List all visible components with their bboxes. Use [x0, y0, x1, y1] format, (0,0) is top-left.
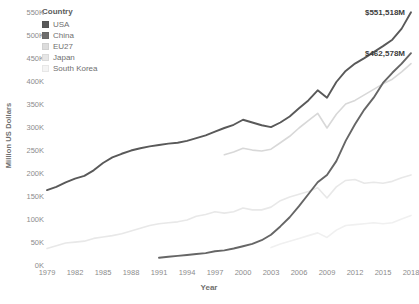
- y-axis-title: Million US Dollars: [2, 0, 16, 270]
- x-axis-title: Year: [0, 283, 418, 292]
- y-axis-title-label: Million US Dollars: [5, 102, 14, 168]
- usa-end-label: $551,518M: [365, 8, 405, 17]
- legend-item-label: South Korea: [53, 63, 97, 74]
- series-line-south-korea: [271, 215, 411, 247]
- x-axis-tick: 2015: [375, 268, 392, 277]
- legend-item-eu27[interactable]: EU27: [42, 41, 134, 52]
- y-axis-tick: 50K: [16, 239, 44, 247]
- legend-swatch-icon: [42, 65, 49, 72]
- legend-swatch-icon: [42, 21, 49, 28]
- x-axis-tick: 2012: [347, 268, 364, 277]
- legend-title: Country: [42, 7, 134, 17]
- x-axis-title-label: Year: [201, 283, 218, 292]
- y-axis-tick: 300K: [16, 124, 44, 132]
- y-axis-tick: 400K: [16, 78, 44, 86]
- legend-swatch-icon: [42, 32, 49, 39]
- y-axis-tick-labels: 0K50K100K150K200K250K300K350K400K450K500…: [16, 0, 44, 272]
- legend-swatch-icon: [42, 54, 49, 61]
- x-axis-tick-labels: 1979198219851988199119941997200020032006…: [47, 268, 411, 280]
- y-axis-tick: 100K: [16, 216, 44, 224]
- series-line-eu27: [224, 64, 411, 155]
- x-axis-tick: 2006: [291, 268, 308, 277]
- legend-item-japan[interactable]: Japan: [42, 52, 134, 63]
- legend-items: USAChinaEU27JapanSouth Korea: [42, 19, 134, 74]
- x-axis-tick: 2000: [235, 268, 252, 277]
- x-axis-tick: 1979: [39, 268, 56, 277]
- x-axis-tick: 1982: [67, 268, 84, 277]
- legend-item-china[interactable]: China: [42, 30, 134, 41]
- legend-item-label: USA: [53, 19, 69, 30]
- y-axis-tick: 150K: [16, 193, 44, 201]
- y-axis-tick: 550K: [16, 9, 44, 17]
- y-axis-tick: 250K: [16, 147, 44, 155]
- series-line-china: [159, 53, 411, 258]
- x-axis-tick: 1988: [123, 268, 140, 277]
- legend-item-label: Japan: [53, 52, 75, 63]
- x-axis-tick: 1994: [179, 268, 196, 277]
- series-line-japan: [47, 175, 411, 249]
- legend: Country USAChinaEU27JapanSouth Korea: [42, 7, 134, 74]
- x-axis-tick: 1997: [207, 268, 224, 277]
- y-axis-tick: 200K: [16, 170, 44, 178]
- legend-item-usa[interactable]: USA: [42, 19, 134, 30]
- x-axis-tick: 2009: [319, 268, 336, 277]
- legend-swatch-icon: [42, 43, 49, 50]
- legend-item-south-korea[interactable]: South Korea: [42, 63, 134, 74]
- legend-item-label: China: [53, 30, 74, 41]
- y-axis-tick: 350K: [16, 101, 44, 109]
- y-axis-tick: 500K: [16, 32, 44, 40]
- legend-item-label: EU27: [53, 41, 73, 52]
- y-axis-tick: 450K: [16, 55, 44, 63]
- china-end-label: $462,578M: [365, 49, 405, 58]
- x-axis-tick: 2003: [263, 268, 280, 277]
- x-axis-tick: 1985: [95, 268, 112, 277]
- x-axis-tick: 1991: [151, 268, 168, 277]
- x-axis-tick: 2018: [403, 268, 419, 277]
